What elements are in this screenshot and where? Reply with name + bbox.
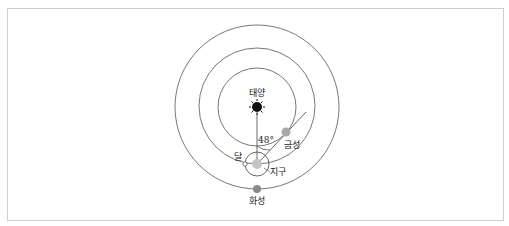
earth-planet: [252, 159, 262, 169]
angle-arc: [257, 146, 270, 150]
moon: [243, 162, 247, 166]
venus-planet: [282, 128, 291, 137]
earth-label: 지구: [270, 167, 286, 177]
venus-label: 금성: [284, 140, 300, 150]
sun-label: 태양: [249, 88, 265, 98]
solar-system-diagram: 태양 48° 금성 달 지구 화성: [0, 0, 509, 226]
angle-label: 48°: [258, 135, 274, 145]
mars-label: 화성: [249, 196, 265, 206]
moon-label: 달: [234, 151, 242, 162]
mars-planet: [253, 185, 261, 193]
